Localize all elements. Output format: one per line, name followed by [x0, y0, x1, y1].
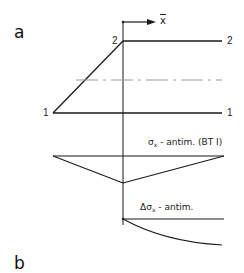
node-label-top-left: 2	[112, 36, 118, 46]
node-label-top-right: 2	[227, 36, 233, 46]
node-label-bottom-right: 1	[227, 108, 233, 118]
delta-sigma-symbol: Δσ	[140, 202, 152, 212]
delta-sigma-text: - antim.	[155, 202, 193, 212]
sigma-text: - antim. (BT I)	[157, 137, 222, 147]
delta-sigma-x-distribution	[122, 218, 224, 245]
panel-label-b: b	[14, 255, 25, 272]
edge-diagonal-1-2	[53, 41, 123, 113]
delta-sigma-x-label: Δσx - antim.	[140, 202, 193, 215]
x-bar-axis-label: x	[160, 16, 166, 26]
sigma-x-distribution	[53, 156, 224, 183]
panel-label-a: a	[14, 24, 24, 41]
sigma-x-label: σx - antim. (BT I)	[148, 137, 222, 150]
node-label-bottom-left: 1	[43, 108, 49, 118]
x-axis-arrow	[122, 19, 156, 25]
